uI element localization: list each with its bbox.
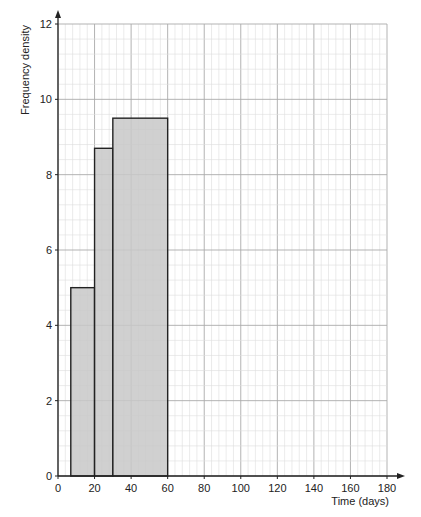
x-tick-label: 20 bbox=[88, 482, 100, 494]
y-tick-label: 10 bbox=[40, 93, 52, 105]
histogram-bar bbox=[95, 148, 113, 476]
histogram-bar bbox=[71, 288, 95, 476]
y-axis-arrow-icon bbox=[55, 10, 61, 18]
y-tick-label: 2 bbox=[46, 395, 52, 407]
y-tick-label: 4 bbox=[46, 319, 52, 331]
y-axis-label: Frequency density bbox=[19, 25, 31, 115]
y-tick-label: 8 bbox=[46, 169, 52, 181]
x-tick-label: 180 bbox=[378, 482, 396, 494]
x-tick-label: 40 bbox=[125, 482, 137, 494]
x-tick-label: 140 bbox=[305, 482, 323, 494]
histogram-bar bbox=[113, 118, 168, 476]
x-axis-arrow-icon bbox=[397, 473, 405, 479]
x-tick-label: 0 bbox=[55, 482, 61, 494]
y-tick-label: 12 bbox=[40, 18, 52, 30]
y-tick-label: 6 bbox=[46, 244, 52, 256]
x-axis-label: Time (days) bbox=[331, 495, 389, 507]
x-tick-label: 60 bbox=[162, 482, 174, 494]
histogram-chart: 020406080100120140160180024681012Time (d… bbox=[0, 0, 421, 517]
x-tick-label: 160 bbox=[341, 482, 359, 494]
x-tick-label: 100 bbox=[232, 482, 250, 494]
y-tick-label: 0 bbox=[46, 470, 52, 482]
x-tick-label: 80 bbox=[198, 482, 210, 494]
x-tick-label: 120 bbox=[268, 482, 286, 494]
